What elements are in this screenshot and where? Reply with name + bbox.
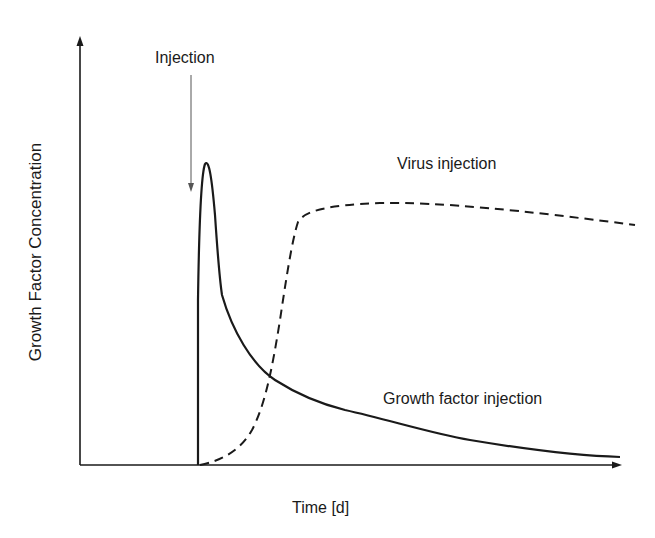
injection-label: Injection (155, 49, 215, 67)
injection-arrowhead-icon (188, 183, 194, 192)
chart-canvas (0, 0, 655, 538)
virus-curve (200, 203, 635, 465)
growth-factor-curve (198, 163, 620, 465)
y-axis-arrowhead-icon (77, 36, 84, 46)
x-axis-label: Time [d] (292, 499, 349, 517)
y-axis-label: Growth Factor Concentration (26, 143, 46, 361)
virus-injection-label: Virus injection (397, 155, 496, 173)
x-axis-arrowhead-icon (612, 462, 622, 469)
growth-factor-injection-label: Growth factor injection (383, 390, 542, 408)
